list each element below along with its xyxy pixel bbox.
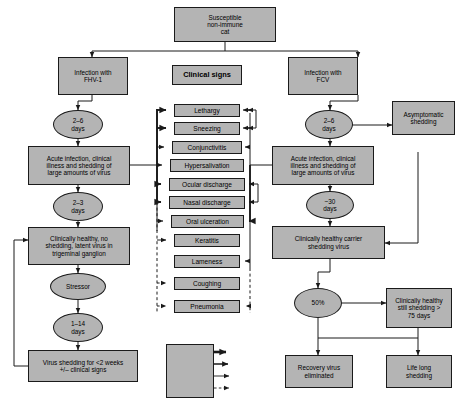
node-label: Lameness <box>192 258 222 265</box>
sign-ocular-discharge: Ocular discharge <box>169 178 245 191</box>
node-life-long-shedding: Life long shedding <box>386 355 452 388</box>
node-infection-fhv1: Infection with FHV-1 <box>58 57 128 95</box>
node-label: Nasal discharge <box>183 199 230 206</box>
node-label: Infection with FCV <box>304 69 341 83</box>
node-label: Clinically healthy still shedding > 75 d… <box>395 297 443 319</box>
node-recrudescence-delay: 1–14 days <box>53 313 103 342</box>
node-label: Susceptible non-immune cat <box>207 14 243 36</box>
sign-keratitis: Keratitis <box>174 234 240 247</box>
node-label: Recovery virus eliminated <box>298 364 340 378</box>
node-label: 2–3 days <box>71 199 85 213</box>
node-fifty-percent-split: 50% <box>294 288 342 318</box>
node-recovery-virus-eliminated: Recovery virus eliminated <box>285 355 353 388</box>
node-fcv-incubation: 2–6 days <box>305 110 353 139</box>
sign-hypersalivation: Hypersalivation <box>170 159 244 172</box>
node-label: Acute infection, clinical illness and sh… <box>290 155 355 177</box>
node-fcv-duration: ~30 days <box>306 191 354 219</box>
node-susceptible-cat: Susceptible non-immune cat <box>174 7 276 42</box>
sign-oral-ulceration: Oral ulceration <box>171 215 244 228</box>
node-asymptomatic-shedding: Asymptomatic shedding <box>392 101 455 135</box>
node-still-shedding-75-days: Clinically healthy still shedding > 75 d… <box>386 288 452 328</box>
node-label: Hypersalivation <box>184 162 229 169</box>
node-label: 1–14 days <box>71 320 85 334</box>
node-fhv1-incubation: 2–6 days <box>53 110 103 139</box>
sign-pneumonia: Pneumonia <box>174 300 240 313</box>
sign-nasal-discharge: Nasal discharge <box>169 196 245 209</box>
node-fcv-acute-infection: Acute infection, clinical illness and sh… <box>272 146 374 185</box>
node-infection-fcv: Infection with FCV <box>288 57 358 95</box>
node-label: 2–6 days <box>322 117 336 131</box>
node-label: Ocular discharge <box>182 181 232 188</box>
node-label: Sneezing <box>193 125 221 132</box>
node-fhv1-duration: 2–3 days <box>53 192 103 221</box>
node-healthy-carrier: Clinically healthy carrier shedding viru… <box>272 226 385 259</box>
node-label: 50% <box>312 299 325 306</box>
sign-coughing: Coughing <box>174 277 240 290</box>
node-fhv1-acute-infection: Acute infection, clinical illness and sh… <box>28 146 130 185</box>
node-label: Infection with FHV-1 <box>74 69 111 83</box>
node-label: Coughing <box>193 280 221 287</box>
node-label: Acute infection, clinical illness and sh… <box>46 155 111 177</box>
node-label: Asymptomatic shedding <box>403 111 443 125</box>
node-label: Lethargy <box>194 107 220 114</box>
node-label: Keratitis <box>195 237 219 244</box>
node-fhv1-latent: Clinically healthy, no shedding, latent … <box>28 227 130 265</box>
node-label: 2–6 days <box>71 117 85 131</box>
sign-sneezing: Sneezing <box>174 122 240 135</box>
node-label: Pneumonia <box>190 303 223 310</box>
node-label: Virus shedding for <2 weeks +/– clinical… <box>43 359 123 373</box>
node-stressor: Stressor <box>50 273 106 300</box>
sign-lameness: Lameness <box>174 255 240 268</box>
legend-box <box>166 344 214 398</box>
node-clinical-signs-header: Clinical signs <box>172 65 242 85</box>
node-label: Oral ulceration <box>186 218 229 225</box>
node-label: Life long shedding <box>406 364 432 378</box>
node-virus-shedding-2-weeks: Virus shedding for <2 weeks +/– clinical… <box>28 350 138 382</box>
flowchart-canvas: Susceptible non-immune cat Clinical sign… <box>0 0 461 407</box>
node-label: ~30 days <box>323 198 337 212</box>
node-label: Clinically healthy carrier shedding viru… <box>295 235 362 249</box>
sign-lethargy: Lethargy <box>174 104 240 117</box>
node-label: Conjunctivitis <box>188 144 227 151</box>
node-label: Stressor <box>66 283 90 290</box>
sign-conjunctivitis: Conjunctivitis <box>172 141 242 154</box>
node-label: Clinical signs <box>183 71 231 79</box>
node-label: Clinically healthy, no shedding, latent … <box>45 235 112 257</box>
